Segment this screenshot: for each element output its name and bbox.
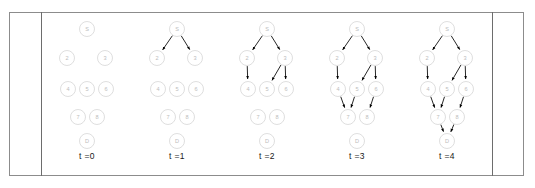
graph-node[interactable]: 2: [330, 51, 345, 66]
graph-node[interactable]: 2: [240, 51, 255, 66]
graph-edge: [272, 65, 281, 80]
graph-node[interactable]: D: [80, 134, 95, 149]
node-label: 8: [185, 114, 188, 120]
graph-node[interactable]: 6: [279, 82, 294, 97]
graph-node[interactable]: 2: [150, 51, 165, 66]
graph-node[interactable]: 7: [161, 110, 176, 125]
graph-node[interactable]: 7: [431, 110, 446, 125]
node-label: 3: [193, 55, 196, 61]
graph-edge: [362, 65, 371, 80]
node-label: D: [355, 138, 359, 144]
graph-node[interactable]: 7: [71, 110, 86, 125]
node-label: 4: [66, 86, 69, 92]
graph-node[interactable]: 5: [80, 82, 95, 97]
node-label: 7: [166, 114, 169, 120]
graph-node[interactable]: 6: [99, 82, 114, 97]
node-label: 3: [463, 55, 466, 61]
graph-node[interactable]: 6: [459, 82, 474, 97]
graph-node[interactable]: 3: [368, 51, 383, 66]
node-group: S2345678D: [420, 22, 474, 149]
node-label: 4: [426, 86, 429, 92]
node-group: S2345678D: [240, 22, 294, 149]
node-label: 6: [374, 86, 377, 92]
graph-node[interactable]: S: [260, 22, 275, 37]
timeline-panel: S2345678Dt =1: [132, 13, 222, 175]
graph-node[interactable]: 7: [341, 110, 356, 125]
node-label: 5: [265, 86, 268, 92]
graph-node[interactable]: 7: [251, 110, 266, 125]
graph-node[interactable]: 4: [151, 82, 166, 97]
node-group: S2345678D: [60, 22, 114, 149]
graph-edge: [271, 36, 279, 50]
graph-node[interactable]: 8: [450, 110, 465, 125]
graph-canvas: S2345678D: [42, 13, 132, 153]
node-label: 5: [355, 86, 358, 92]
node-label: S: [445, 26, 449, 32]
graph-node[interactable]: D: [260, 134, 275, 149]
figure-root: S2345678Dt =0S2345678Dt =1S2345678Dt =2S…: [0, 0, 535, 188]
node-label: 5: [85, 86, 88, 92]
graph-node[interactable]: 8: [180, 110, 195, 125]
edge-group: [163, 36, 190, 50]
graph-node[interactable]: S: [170, 22, 185, 37]
node-label: 7: [76, 114, 79, 120]
graph-node[interactable]: 5: [170, 82, 185, 97]
graph-node[interactable]: S: [80, 22, 95, 37]
node-label: S: [175, 26, 179, 32]
graph-node[interactable]: 8: [360, 110, 375, 125]
graph-node[interactable]: 5: [350, 82, 365, 97]
node-label: 5: [445, 86, 448, 92]
node-label: 8: [95, 114, 98, 120]
node-label: 4: [156, 86, 159, 92]
graph-edge: [181, 36, 189, 50]
node-label: 2: [335, 55, 338, 61]
node-label: 7: [436, 114, 439, 120]
graph-node[interactable]: 5: [440, 82, 455, 97]
graph-edge: [452, 65, 461, 80]
timeline-panel: S2345678Dt =0: [42, 13, 132, 175]
graph-node[interactable]: 6: [369, 82, 384, 97]
graph-node[interactable]: S: [440, 22, 455, 37]
graph-node[interactable]: S: [350, 22, 365, 37]
graph-node[interactable]: 3: [188, 51, 203, 66]
timeline-panel: S2345678Dt =3: [312, 13, 402, 175]
graph-node[interactable]: D: [170, 134, 185, 149]
graph-node[interactable]: 3: [98, 51, 113, 66]
graph-edge: [351, 97, 354, 108]
node-label: 4: [336, 86, 339, 92]
graph-node[interactable]: D: [350, 134, 365, 149]
node-label: 8: [275, 114, 278, 120]
graph-node[interactable]: 3: [458, 51, 473, 66]
graph-edge: [451, 124, 454, 131]
graph-node[interactable]: 5: [260, 82, 275, 97]
graph-node[interactable]: 4: [421, 82, 436, 97]
timeline-panel: S2345678Dt =2: [222, 13, 312, 175]
node-label: 3: [373, 55, 376, 61]
timeline-panel: S2345678Dt =4: [402, 13, 492, 175]
graph-edge: [341, 97, 345, 108]
graph-canvas: S2345678D: [402, 13, 492, 153]
node-label: S: [355, 26, 359, 32]
time-step-label: t =1: [132, 151, 222, 161]
node-label: 7: [346, 114, 349, 120]
graph-edge: [343, 36, 353, 50]
graph-node[interactable]: 8: [90, 110, 105, 125]
time-step-label: t =0: [42, 151, 132, 161]
graph-edge: [460, 97, 463, 108]
graph-node[interactable]: 3: [278, 51, 293, 66]
graph-node[interactable]: 6: [189, 82, 204, 97]
graph-node[interactable]: 2: [60, 51, 75, 66]
timeline-panels: S2345678Dt =0S2345678Dt =1S2345678Dt =2S…: [42, 13, 492, 175]
node-label: 8: [365, 114, 368, 120]
graph-node[interactable]: 2: [420, 51, 435, 66]
graph-node[interactable]: D: [440, 134, 455, 149]
graph-node[interactable]: 4: [241, 82, 256, 97]
node-label: 8: [455, 114, 458, 120]
graph-node[interactable]: 8: [270, 110, 285, 125]
node-label: 6: [284, 86, 287, 92]
node-label: S: [85, 26, 89, 32]
graph-node[interactable]: 4: [61, 82, 76, 97]
graph-canvas: S2345678D: [132, 13, 222, 153]
node-label: 4: [246, 86, 249, 92]
graph-node[interactable]: 4: [331, 82, 346, 97]
